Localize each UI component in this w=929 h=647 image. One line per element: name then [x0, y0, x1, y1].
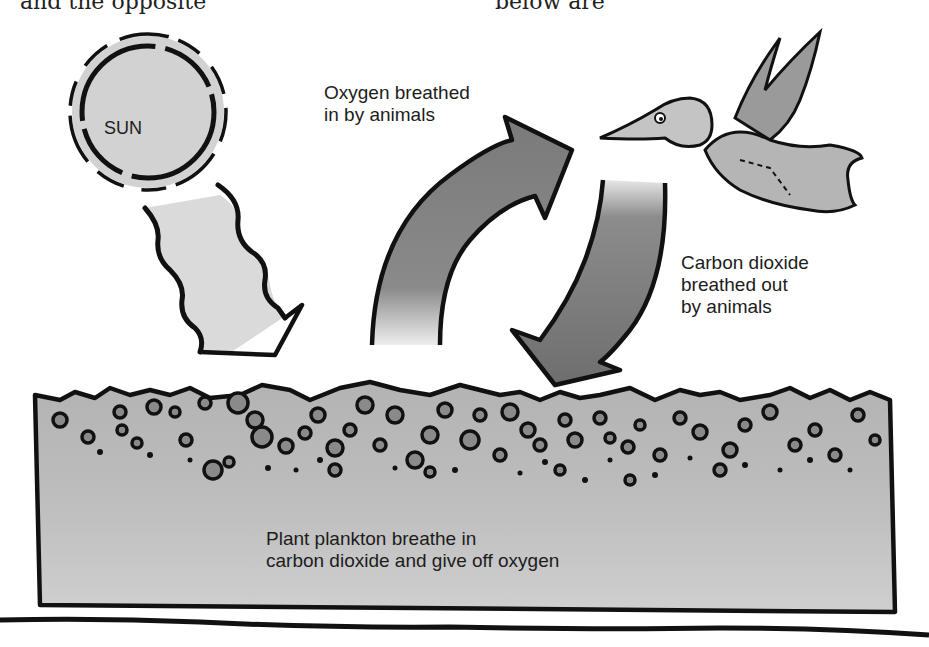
plankton-label-line-1: Plant plankton breathe in [266, 528, 559, 550]
oxygen-arrow-icon [372, 117, 572, 345]
carbon-dioxide-label: Carbon dioxide breathed out by animals [681, 252, 809, 318]
oxygen-label-line-1: Oxygen breathed [324, 82, 470, 104]
diagram-canvas: and the opposite below are [0, 0, 929, 647]
sun-icon [70, 34, 226, 190]
oxygen-label-line-2: in by animals [324, 104, 470, 126]
carbon-dioxide-arrow-icon [512, 180, 665, 385]
carbon-dioxide-label-line-3: by animals [681, 296, 809, 318]
carbon-dioxide-label-line-1: Carbon dioxide [681, 252, 809, 274]
sun-label: SUN [104, 117, 142, 139]
plankton-label-line-2: carbon dioxide and give off oxygen [266, 550, 559, 572]
bottom-rule [0, 619, 929, 635]
carbon-dioxide-label-line-2: breathed out [681, 274, 809, 296]
sunlight-arrow-icon [145, 185, 302, 355]
plankton-label: Plant plankton breathe in carbon dioxide… [266, 528, 559, 572]
oxygen-label: Oxygen breathed in by animals [324, 82, 470, 126]
